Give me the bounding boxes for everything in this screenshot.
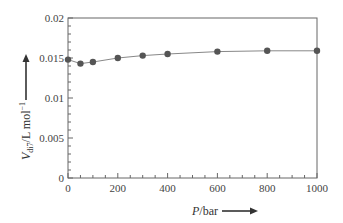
svg-text:600: 600 <box>209 182 226 194</box>
svg-text:0.005: 0.005 <box>39 132 64 144</box>
svg-text:1000: 1000 <box>306 182 329 194</box>
x-axis-label: P/bar <box>191 204 218 218</box>
y-axis-label: Vdi7/L mol−1 <box>18 102 35 160</box>
y-axis-arrow-icon <box>23 54 30 100</box>
svg-text:Vdi7/L mol−1: Vdi7/L mol−1 <box>18 102 35 160</box>
svg-text:0.015: 0.015 <box>39 52 64 64</box>
plot-frame <box>68 18 317 178</box>
svg-text:0: 0 <box>59 172 65 184</box>
x-axis-arrow-icon <box>222 208 258 215</box>
svg-text:400: 400 <box>159 182 176 194</box>
svg-text:0.02: 0.02 <box>45 12 64 24</box>
svg-text:0.01: 0.01 <box>45 92 64 104</box>
chart: 0200400600800100000.0050.010.0150.02 P/b… <box>0 0 343 223</box>
axis-ticks: 0200400600800100000.0050.010.0150.02 <box>39 12 328 194</box>
svg-text:200: 200 <box>110 182 127 194</box>
data-series <box>65 48 320 67</box>
svg-text:0: 0 <box>65 182 71 194</box>
svg-text:800: 800 <box>259 182 276 194</box>
